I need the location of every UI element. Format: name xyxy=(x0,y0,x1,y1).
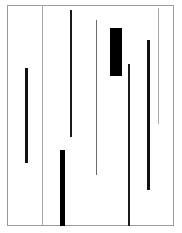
segment-3 xyxy=(70,10,72,137)
segment-7 xyxy=(147,40,150,190)
segment-4 xyxy=(96,20,97,175)
segment-5 xyxy=(110,28,122,76)
segment-1 xyxy=(25,68,28,163)
segment-2 xyxy=(60,150,65,226)
divider-left xyxy=(42,5,43,226)
divider-right xyxy=(158,8,159,124)
figure-root xyxy=(0,0,182,233)
segment-6 xyxy=(128,64,130,226)
